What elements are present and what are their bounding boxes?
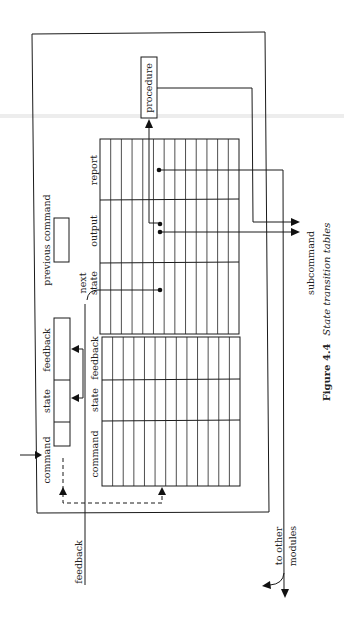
subcommand-arrow-2 bbox=[291, 228, 300, 236]
reg-state-label: state bbox=[41, 389, 52, 413]
table-state-label: state bbox=[89, 388, 100, 412]
subcommand-arrow-1 bbox=[291, 218, 300, 226]
scan-fold bbox=[0, 114, 344, 118]
next-state-label-1: next bbox=[77, 272, 88, 293]
state-arrow bbox=[71, 394, 79, 402]
feedback-return-line bbox=[79, 349, 83, 398]
previous-command-label: previous command bbox=[41, 194, 52, 285]
output-label: output bbox=[88, 215, 99, 247]
subcommand-label: subcommand bbox=[305, 231, 316, 295]
reg-command-label: command bbox=[41, 437, 52, 484]
procedure-arrow bbox=[145, 119, 153, 128]
report-label: report bbox=[88, 155, 99, 186]
previous-command-box bbox=[54, 218, 69, 262]
figure-title: State transition tables bbox=[321, 223, 332, 336]
dashed-arrow-right bbox=[158, 487, 166, 495]
table-feedback-label: feedback bbox=[89, 336, 100, 380]
report-dot bbox=[157, 168, 162, 173]
to-other-label: to other bbox=[273, 526, 284, 565]
state-transition-diagram: procedure report output next state feedb… bbox=[0, 0, 344, 625]
feedback-arrow bbox=[71, 345, 79, 353]
figure-number: Figure 4.4 bbox=[321, 344, 332, 402]
next-state-label-2: state bbox=[88, 271, 99, 295]
current-register bbox=[54, 318, 70, 446]
svg-text:Figure 4.4 State transit: Figure 4.4 State transition tables bbox=[316, 223, 333, 402]
lower-table bbox=[102, 337, 240, 486]
procedure-label: procedure bbox=[143, 63, 154, 113]
to-other-arrow-down bbox=[281, 589, 289, 598]
table-command-label: command bbox=[89, 431, 100, 478]
to-other-branch bbox=[270, 573, 284, 585]
procedure-select-dot bbox=[158, 222, 163, 227]
report-line bbox=[159, 170, 284, 590]
feedback-input-label: feedback bbox=[73, 540, 84, 584]
to-other-arrow-left bbox=[262, 581, 271, 589]
reg-feedback-label: feedback bbox=[41, 328, 52, 372]
figure-caption: Figure 4.4 State transition tables bbox=[316, 223, 333, 402]
upper-table bbox=[100, 139, 239, 334]
output-dot bbox=[158, 230, 163, 235]
procedure-output-line bbox=[157, 88, 291, 222]
modules-label: modules bbox=[287, 526, 298, 567]
dashed-arrow-left bbox=[59, 487, 67, 495]
next-state-dot bbox=[158, 288, 163, 293]
